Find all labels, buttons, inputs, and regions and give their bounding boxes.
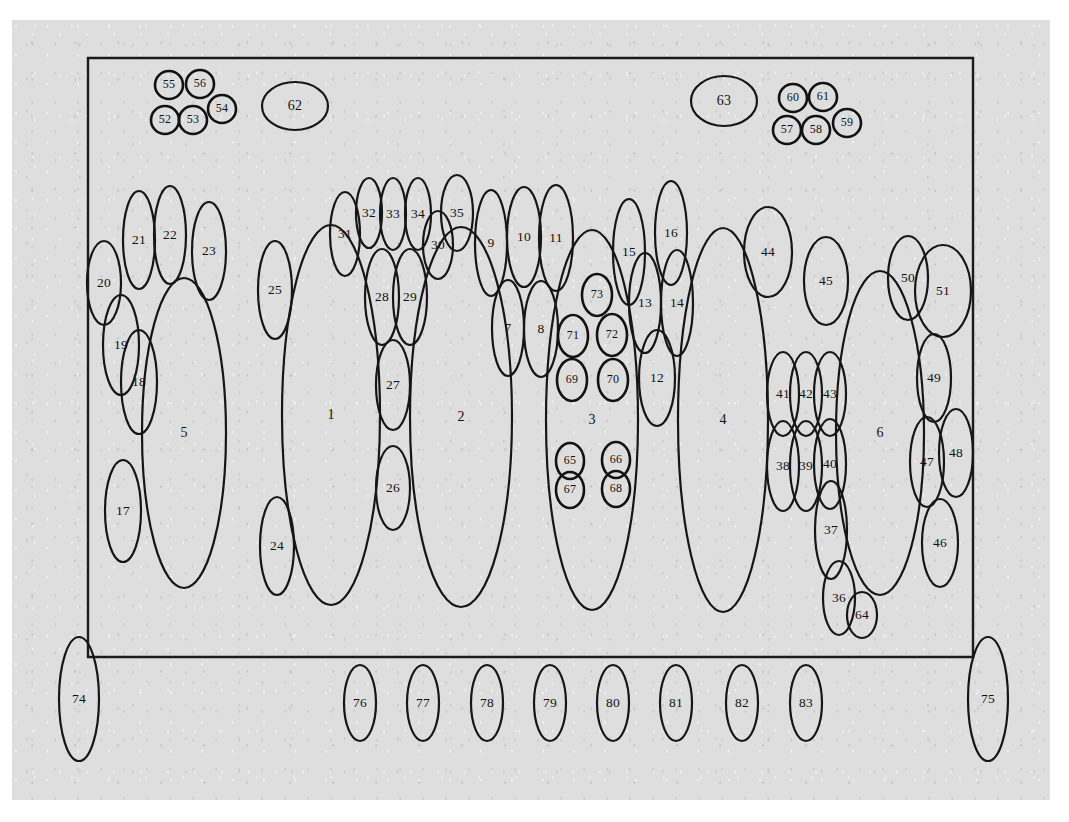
ellipse-label-17: 17 [116, 503, 130, 518]
ellipse-region-67[interactable]: 67 [556, 472, 584, 508]
ellipse-region-22[interactable]: 22 [154, 186, 186, 284]
ellipse-region-80[interactable]: 80 [597, 665, 629, 741]
ellipse-region-46[interactable]: 46 [922, 499, 958, 587]
ellipse-region-5[interactable]: 5 [142, 278, 226, 588]
ellipse-label-53: 53 [187, 112, 199, 126]
ellipse-region-66[interactable]: 66 [602, 442, 630, 478]
ellipse-label-57: 57 [781, 122, 793, 136]
ellipse-region-26[interactable]: 26 [376, 446, 410, 530]
ellipse-region-57[interactable]: 57 [773, 116, 801, 144]
ellipse-label-66: 66 [610, 452, 622, 466]
ellipse-label-60: 60 [787, 90, 799, 104]
ellipse-label-15: 15 [622, 244, 636, 259]
ellipse-region-76[interactable]: 76 [344, 665, 376, 741]
ellipse-diagram-canvas: 1234567891011121314151617181920212223242… [0, 0, 1069, 822]
ellipse-region-11[interactable]: 11 [539, 185, 573, 291]
ellipse-region-2[interactable]: 2 [410, 227, 512, 607]
ellipse-label-36: 36 [832, 590, 846, 605]
ellipse-region-58[interactable]: 58 [802, 116, 830, 144]
ellipse-region-32[interactable]: 32 [356, 178, 382, 248]
ellipse-region-61[interactable]: 61 [809, 83, 837, 111]
ellipse-region-17[interactable]: 17 [105, 460, 141, 562]
ellipse-label-67: 67 [564, 482, 576, 496]
ellipse-region-55[interactable]: 55 [155, 71, 183, 99]
ellipse-region-73[interactable]: 73 [582, 274, 612, 316]
ellipse-region-81[interactable]: 81 [660, 665, 692, 741]
ellipse-label-22: 22 [163, 227, 177, 242]
ellipse-region-33[interactable]: 33 [380, 178, 406, 250]
ellipse-region-9[interactable]: 9 [475, 190, 507, 296]
ellipse-region-7[interactable]: 7 [492, 280, 524, 376]
ellipse-label-55: 55 [163, 77, 175, 91]
ellipse-label-38: 38 [776, 458, 790, 473]
ellipse-label-46: 46 [933, 535, 947, 550]
ellipse-region-16[interactable]: 16 [655, 181, 687, 285]
ellipse-region-34[interactable]: 34 [405, 178, 431, 250]
ellipse-label-80: 80 [606, 695, 620, 710]
ellipse-region-75[interactable]: 75 [968, 637, 1008, 761]
ellipse-label-32: 32 [362, 205, 376, 220]
ellipse-label-71: 71 [567, 328, 579, 342]
ellipse-region-69[interactable]: 69 [557, 359, 587, 401]
ellipse-region-40[interactable]: 40 [814, 419, 846, 509]
ellipse-label-34: 34 [411, 206, 425, 221]
ellipse-region-77[interactable]: 77 [407, 665, 439, 741]
ellipse-label-49: 49 [927, 370, 941, 385]
ellipse-region-25[interactable]: 25 [258, 241, 292, 339]
ellipse-region-68[interactable]: 68 [602, 471, 630, 507]
ellipse-label-10: 10 [517, 229, 531, 244]
ellipse-region-74[interactable]: 74 [59, 637, 99, 761]
ellipse-region-21[interactable]: 21 [123, 191, 155, 289]
ellipse-label-83: 83 [799, 695, 813, 710]
ellipse-label-75: 75 [981, 691, 995, 706]
ellipse-label-29: 29 [403, 289, 417, 304]
ellipse-region-60[interactable]: 60 [779, 84, 807, 112]
ellipse-label-77: 77 [416, 695, 430, 710]
ellipse-region-12[interactable]: 12 [639, 330, 675, 426]
ellipse-label-72: 72 [606, 327, 618, 341]
ellipse-region-23[interactable]: 23 [192, 202, 226, 300]
ellipse-label-79: 79 [543, 695, 557, 710]
ellipse-label-70: 70 [607, 372, 619, 386]
ellipse-region-24[interactable]: 24 [260, 497, 294, 595]
ellipse-region-10[interactable]: 10 [507, 187, 541, 287]
ellipse-label-35: 35 [450, 205, 464, 220]
ellipse-region-78[interactable]: 78 [471, 665, 503, 741]
ellipse-region-43[interactable]: 43 [814, 352, 846, 436]
ellipse-label-19: 19 [114, 337, 128, 352]
ellipse-region-8[interactable]: 8 [524, 281, 558, 377]
ellipse-region-79[interactable]: 79 [534, 665, 566, 741]
ellipse-region-83[interactable]: 83 [790, 665, 822, 741]
ellipse-label-23: 23 [202, 243, 216, 258]
ellipse-region-59[interactable]: 59 [833, 109, 861, 137]
ellipse-region-65[interactable]: 65 [556, 443, 584, 479]
ellipse-region-82[interactable]: 82 [726, 665, 758, 741]
ellipse-region-42[interactable]: 42 [790, 352, 822, 436]
ellipse-region-56[interactable]: 56 [186, 70, 214, 98]
ellipse-label-1: 1 [327, 407, 334, 422]
ellipse-label-28: 28 [375, 289, 389, 304]
ellipse-region-51[interactable]: 51 [915, 245, 971, 337]
ellipse-region-63[interactable]: 63 [691, 76, 757, 126]
ellipse-region-72[interactable]: 72 [597, 314, 627, 356]
ellipse-region-64[interactable]: 64 [847, 592, 877, 638]
ellipse-label-42: 42 [799, 386, 813, 401]
ellipse-label-31: 31 [338, 226, 352, 241]
ellipse-region-70[interactable]: 70 [598, 359, 628, 401]
figure-page: 1234567891011121314151617181920212223242… [0, 0, 1069, 822]
ellipse-label-54: 54 [216, 101, 228, 115]
ellipse-label-37: 37 [824, 522, 838, 537]
ellipse-region-53[interactable]: 53 [179, 106, 207, 134]
ellipse-region-71[interactable]: 71 [558, 315, 588, 357]
ellipse-region-45[interactable]: 45 [804, 237, 848, 325]
ellipse-region-54[interactable]: 54 [208, 95, 236, 123]
ellipse-label-5: 5 [180, 425, 187, 440]
ellipse-label-73: 73 [591, 287, 603, 301]
ellipse-region-44[interactable]: 44 [744, 207, 792, 297]
ellipse-region-35[interactable]: 35 [441, 175, 473, 251]
ellipse-region-27[interactable]: 27 [376, 340, 410, 430]
ellipse-label-2: 2 [457, 409, 464, 424]
ellipse-region-20[interactable]: 20 [87, 241, 121, 325]
ellipse-region-52[interactable]: 52 [151, 106, 179, 134]
ellipse-region-62[interactable]: 62 [262, 82, 328, 130]
